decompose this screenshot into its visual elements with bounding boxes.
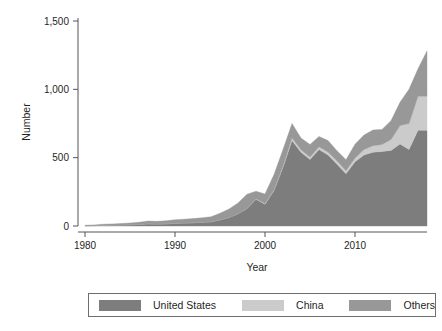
legend-label-china: China xyxy=(296,300,323,311)
x-tick-label: 1990 xyxy=(164,240,187,251)
x-axis-title: Year xyxy=(246,261,268,273)
y-tick-label: 0 xyxy=(63,221,69,232)
legend-label-others: Others xyxy=(403,300,435,311)
stacked-area-chart: 05001,0001,500 1980199020002010 Year Num… xyxy=(0,0,442,285)
legend-swatch-united-states xyxy=(99,300,141,311)
x-axis-ticks: 1980199020002010 xyxy=(74,232,367,251)
chart-legend: United States China Others xyxy=(88,293,436,317)
x-tick-label: 1980 xyxy=(74,240,97,251)
legend-swatch-china xyxy=(242,300,284,311)
legend-item-others: Others xyxy=(349,294,435,316)
x-tick-label: 2000 xyxy=(254,240,277,251)
y-tick-label: 1,500 xyxy=(44,16,69,27)
figure: 05001,0001,500 1980199020002010 Year Num… xyxy=(0,0,442,331)
legend-item-china: China xyxy=(242,294,323,316)
plot-area: 05001,0001,500 1980199020002010 Year Num… xyxy=(0,0,442,285)
y-tick-label: 500 xyxy=(52,152,69,163)
y-axis-ticks: 05001,0001,500 xyxy=(44,16,78,232)
area-series-group xyxy=(85,51,427,226)
y-axis-title: Number xyxy=(20,103,32,141)
x-tick-label: 2010 xyxy=(344,240,367,251)
y-tick-label: 1,000 xyxy=(44,84,69,95)
legend-swatch-others xyxy=(349,300,391,311)
legend-item-united-states: United States xyxy=(99,294,216,316)
legend-label-united-states: United States xyxy=(153,300,216,311)
